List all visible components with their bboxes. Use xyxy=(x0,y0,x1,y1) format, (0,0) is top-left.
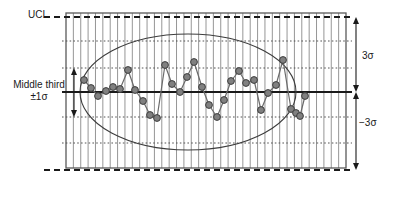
ucl-label: UCL xyxy=(28,9,48,20)
data-point-marker xyxy=(162,62,169,69)
data-point-marker xyxy=(95,93,102,100)
data-point-marker xyxy=(81,77,88,84)
data-point-marker xyxy=(154,115,161,122)
minus-three-sigma-label: −3σ xyxy=(359,117,377,128)
data-point-marker xyxy=(302,93,309,100)
data-point-marker xyxy=(273,82,280,89)
data-point-marker xyxy=(191,59,198,66)
data-point-marker xyxy=(228,78,235,85)
data-point-marker xyxy=(214,114,221,121)
data-point-marker xyxy=(110,84,117,91)
data-point-marker xyxy=(132,87,139,94)
data-point-marker xyxy=(221,97,228,104)
one-sigma-label: ±1σ xyxy=(8,91,70,102)
data-point-marker xyxy=(184,74,191,81)
plus-three-sigma-label: 3σ xyxy=(362,50,374,61)
data-point-marker xyxy=(243,80,250,87)
data-point-marker xyxy=(297,113,304,120)
data-point-marker xyxy=(236,68,243,75)
data-point-marker xyxy=(206,102,213,109)
data-point-marker xyxy=(280,57,287,64)
data-point-marker xyxy=(199,84,206,91)
data-point-marker xyxy=(258,107,265,114)
data-point-marker xyxy=(265,90,272,97)
middle-third-label: Middle third xyxy=(8,79,70,90)
data-point-marker xyxy=(251,77,258,84)
data-point-marker xyxy=(140,98,147,105)
data-point-marker xyxy=(177,89,184,96)
data-point-marker xyxy=(125,67,132,74)
data-point-marker xyxy=(169,81,176,88)
data-point-marker xyxy=(88,85,95,92)
data-point-marker xyxy=(103,88,110,95)
data-point-marker xyxy=(147,112,154,119)
data-point-marker xyxy=(117,86,124,93)
control-chart-figure: UCL Middle third ±1σ 3σ −3σ xyxy=(0,0,397,199)
